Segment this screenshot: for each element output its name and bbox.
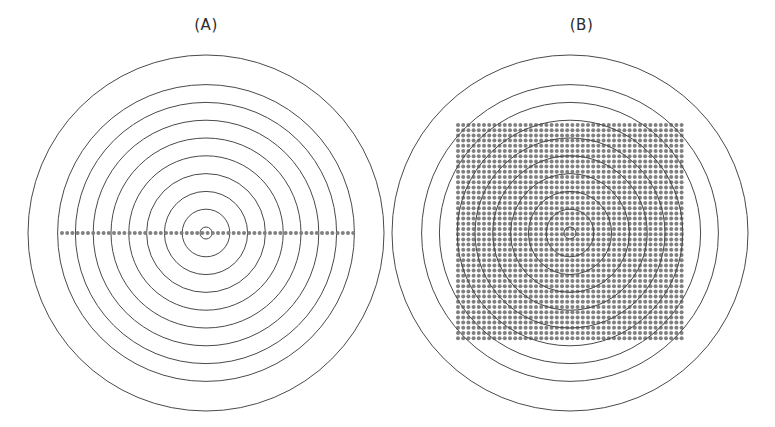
sample-point bbox=[524, 258, 528, 262]
sample-point bbox=[477, 305, 481, 309]
sample-point bbox=[513, 336, 517, 340]
sample-point bbox=[461, 232, 465, 236]
sample-point bbox=[576, 336, 580, 340]
sample-point bbox=[622, 326, 626, 330]
sample-point bbox=[648, 258, 652, 262]
sample-point bbox=[550, 149, 554, 153]
sample-point bbox=[669, 326, 673, 330]
sample-point bbox=[669, 305, 673, 309]
sample-point bbox=[524, 326, 528, 330]
sample-point bbox=[216, 231, 220, 235]
sample-point bbox=[477, 232, 481, 236]
sample-point bbox=[591, 217, 595, 221]
sample-point bbox=[586, 237, 590, 241]
sample-point bbox=[596, 331, 600, 335]
sample-point bbox=[633, 227, 637, 231]
sample-point bbox=[539, 165, 543, 169]
sample-point bbox=[555, 321, 559, 325]
sample-point bbox=[680, 279, 684, 283]
sample-point bbox=[576, 149, 580, 153]
sample-point bbox=[560, 211, 564, 215]
sample-point bbox=[576, 211, 580, 215]
sample-point bbox=[596, 128, 600, 132]
sample-point bbox=[498, 315, 502, 319]
sample-point bbox=[659, 284, 663, 288]
sample-point bbox=[607, 263, 611, 267]
sample-point bbox=[461, 243, 465, 247]
sample-point bbox=[596, 279, 600, 283]
sample-point bbox=[633, 336, 637, 340]
sample-point bbox=[633, 196, 637, 200]
sample-point bbox=[674, 201, 678, 205]
sample-point bbox=[648, 300, 652, 304]
sample-point bbox=[565, 185, 569, 189]
sample-point bbox=[492, 284, 496, 288]
sample-point bbox=[524, 331, 528, 335]
sample-point bbox=[461, 165, 465, 169]
sample-point bbox=[518, 144, 522, 148]
sample-point bbox=[461, 206, 465, 210]
sample-point bbox=[607, 321, 611, 325]
sample-point bbox=[544, 248, 548, 252]
sample-point bbox=[674, 321, 678, 325]
sample-point bbox=[461, 175, 465, 179]
sample-point bbox=[472, 258, 476, 262]
sample-point bbox=[492, 269, 496, 273]
sample-point bbox=[638, 253, 642, 257]
sample-point bbox=[659, 310, 663, 314]
sample-point bbox=[65, 231, 69, 235]
sample-point bbox=[586, 331, 590, 335]
sample-point bbox=[534, 305, 538, 309]
sample-point bbox=[487, 206, 491, 210]
sample-point bbox=[654, 175, 658, 179]
sample-point bbox=[503, 263, 507, 267]
sample-point bbox=[654, 295, 658, 299]
sample-point bbox=[617, 191, 621, 195]
sample-point bbox=[648, 295, 652, 299]
sample-point bbox=[633, 211, 637, 215]
sample-point bbox=[221, 231, 225, 235]
sample-point bbox=[456, 128, 460, 132]
sample-point bbox=[617, 315, 621, 319]
sample-point bbox=[487, 133, 491, 137]
sample-point bbox=[638, 217, 642, 221]
sample-point bbox=[518, 321, 522, 325]
sample-point bbox=[596, 300, 600, 304]
sample-point bbox=[550, 206, 554, 210]
sample-point bbox=[482, 170, 486, 174]
sample-point bbox=[508, 253, 512, 257]
sample-point bbox=[503, 232, 507, 236]
sample-point bbox=[529, 206, 533, 210]
sample-point bbox=[529, 139, 533, 143]
sample-point bbox=[498, 227, 502, 231]
sample-point bbox=[539, 253, 543, 257]
sample-point bbox=[612, 144, 616, 148]
sample-point bbox=[498, 274, 502, 278]
sample-point bbox=[498, 253, 502, 257]
sample-point bbox=[258, 231, 262, 235]
sample-point bbox=[622, 269, 626, 273]
sample-point bbox=[472, 149, 476, 153]
sample-point bbox=[659, 243, 663, 247]
sample-point bbox=[508, 123, 512, 127]
sample-point bbox=[544, 279, 548, 283]
sample-point bbox=[680, 201, 684, 205]
sample-point bbox=[487, 274, 491, 278]
sample-point bbox=[596, 274, 600, 278]
sample-point bbox=[456, 201, 460, 205]
sample-point bbox=[617, 227, 621, 231]
sample-point bbox=[487, 170, 491, 174]
sample-point bbox=[680, 263, 684, 267]
sample-point bbox=[466, 139, 470, 143]
sample-point bbox=[498, 175, 502, 179]
sample-point bbox=[586, 123, 590, 127]
sample-point bbox=[633, 279, 637, 283]
sample-point bbox=[492, 144, 496, 148]
sample-point bbox=[664, 185, 668, 189]
sample-point bbox=[612, 326, 616, 330]
sample-point bbox=[544, 253, 548, 257]
sample-point bbox=[513, 144, 517, 148]
sample-point bbox=[529, 232, 533, 236]
sample-point bbox=[456, 336, 460, 340]
sample-point bbox=[654, 237, 658, 241]
